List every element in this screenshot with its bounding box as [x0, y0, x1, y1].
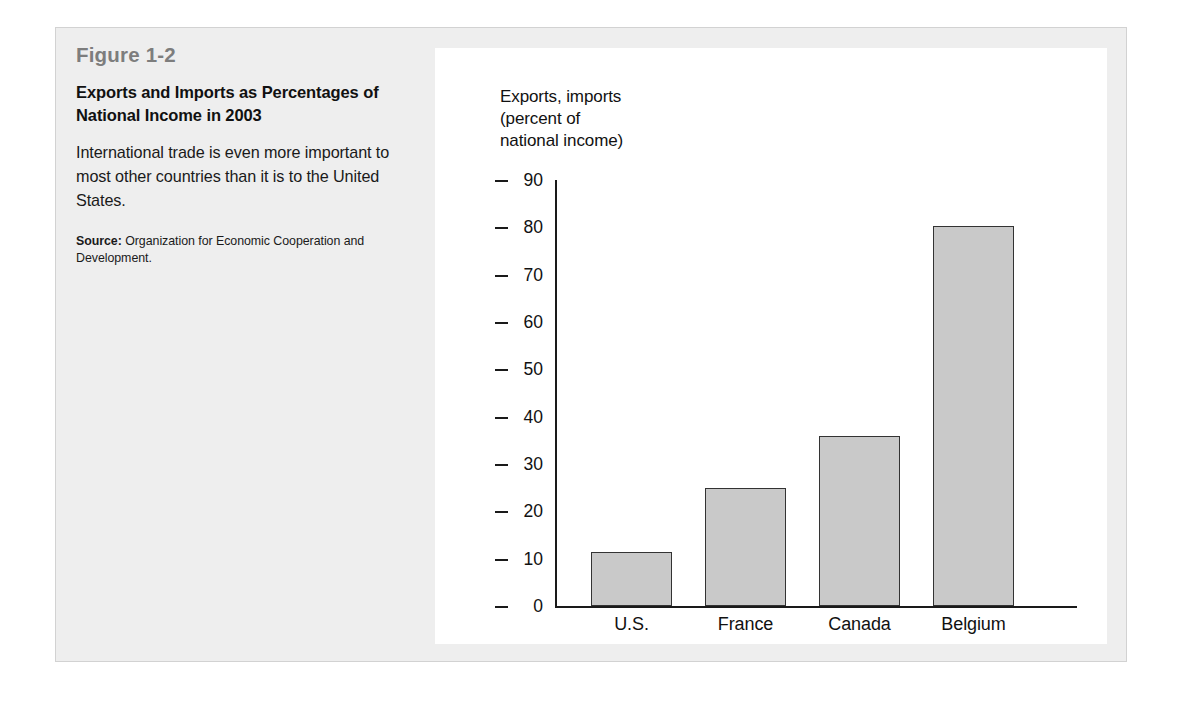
x-tick-label: Belgium: [911, 614, 1036, 635]
y-axis-line: [555, 180, 557, 608]
y-tick-label: 10: [503, 548, 543, 569]
x-tick-label: U.S.: [569, 614, 694, 635]
bar-france: [705, 488, 786, 606]
y-tick-label: 80: [503, 217, 543, 238]
bar-belgium: [933, 226, 1014, 606]
x-tick-label: France: [683, 614, 808, 635]
y-tick-label: 50: [503, 359, 543, 380]
chart-panel: Exports, imports (percent of national in…: [435, 48, 1107, 644]
figure-box: Figure 1-2 Exports and Imports as Percen…: [55, 27, 1127, 662]
caption-column: Figure 1-2 Exports and Imports as Percen…: [56, 28, 435, 661]
y-tick-label: 30: [503, 454, 543, 475]
y-tick-label: 60: [503, 312, 543, 333]
y-tick-label: 70: [503, 264, 543, 285]
figure-number: Figure 1-2: [76, 44, 413, 67]
source-label: Source:: [76, 234, 122, 248]
y-tick-label: 90: [503, 170, 543, 191]
figure-title: Exports and Imports as Percentages of Na…: [76, 81, 413, 128]
figure-description: International trade is even more importa…: [76, 141, 413, 212]
bar-u-s: [591, 552, 672, 606]
y-tick-label: 20: [503, 501, 543, 522]
x-tick-label: Canada: [797, 614, 922, 635]
plot-area: 0102030405060708090 U.S.FranceCanadaBelg…: [435, 48, 1107, 644]
x-axis-line: [555, 606, 1077, 608]
y-tick-label: 0: [503, 596, 543, 617]
y-tick-label: 40: [503, 406, 543, 427]
bar-canada: [819, 436, 900, 606]
figure-source: Source: Organization for Economic Cooper…: [76, 233, 413, 268]
